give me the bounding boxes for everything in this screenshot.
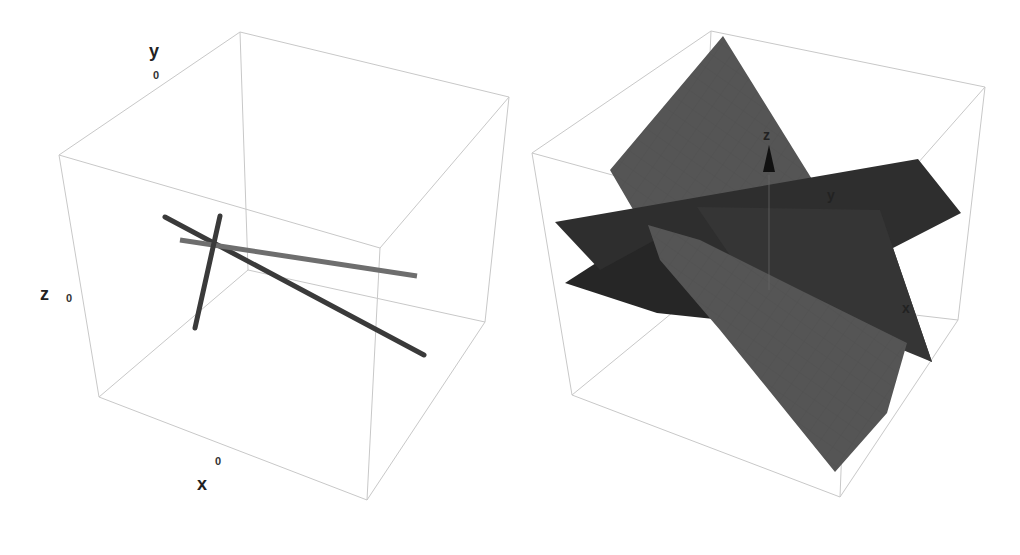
- z-axis-label: z: [40, 284, 49, 304]
- right-panel: z y x: [532, 31, 985, 497]
- x-axis-label-right: x: [902, 300, 910, 316]
- left-lines: [165, 216, 424, 355]
- y-axis-label: y: [149, 41, 159, 61]
- y-axis-tick: 0: [153, 69, 159, 81]
- x-axis-label: x: [197, 474, 207, 494]
- z-axis-tick: 0: [66, 292, 72, 304]
- left-panel: y 0 z 0 0 x: [40, 32, 509, 500]
- x-axis-tick: 0: [215, 455, 221, 467]
- z-axis-label-right: z: [763, 127, 770, 143]
- y-axis-label-right: y: [827, 187, 835, 203]
- figure-canvas: y 0 z 0 0 x: [0, 0, 1020, 555]
- left-bounding-box: [59, 32, 509, 500]
